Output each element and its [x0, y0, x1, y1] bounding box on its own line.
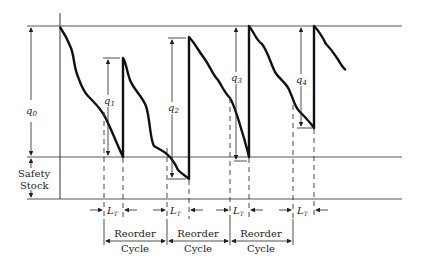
q0-label: q0 [26, 105, 37, 118]
lead-time-label-4: LT [296, 205, 309, 217]
q1-label: q1 [104, 95, 115, 108]
svg-text:Cycle: Cycle [121, 243, 149, 254]
lead-time-label-2: LT [169, 205, 182, 217]
reorder-cycle-label-1: Reorder [114, 228, 156, 239]
q3-label: q3 [231, 72, 242, 85]
svg-text:Cycle: Cycle [247, 243, 275, 254]
lead-time-projections [104, 98, 314, 219]
svg-text:Cycle: Cycle [184, 243, 212, 254]
inventory-diagram: q0 Safety Stock q1 q2 q3 q4 [0, 0, 421, 269]
inventory-curve [60, 26, 346, 179]
svg-text:Stock: Stock [20, 180, 49, 191]
q4-label: q4 [296, 74, 307, 87]
lead-time-label-3: LT [232, 205, 245, 217]
q2-label: q2 [168, 102, 179, 115]
reorder-cycle-label-2: Reorder [177, 228, 219, 239]
reorder-cycle-label-3: Reorder [240, 228, 282, 239]
lead-time-label-1: LT [106, 205, 119, 217]
safety-stock-label: Safety [18, 168, 50, 179]
